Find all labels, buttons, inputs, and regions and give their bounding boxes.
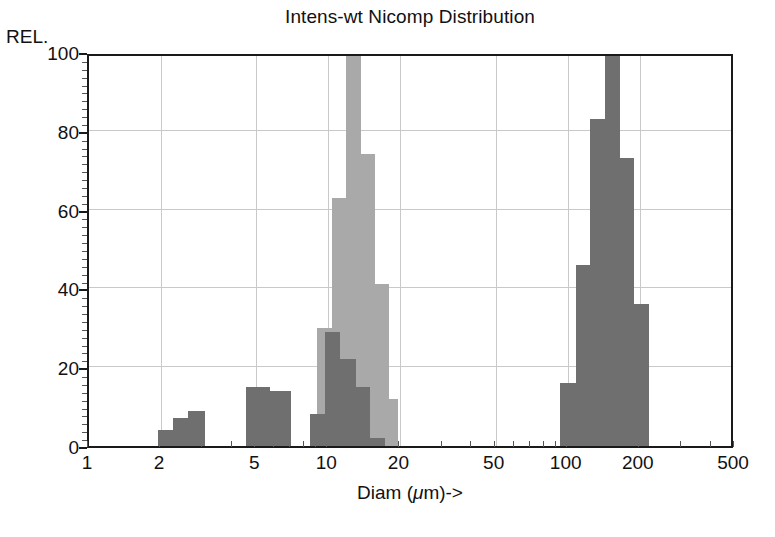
x-axis-tick-label: 10 [316,452,337,474]
x-axis-tick-minor [494,441,495,447]
chart-container: Intens-wt Nicomp Distribution REL. 02040… [0,0,775,537]
y-axis-tick-minor [82,117,87,118]
bar [620,158,635,446]
bar [370,438,385,446]
y-axis-tick-minor [82,172,87,173]
bar [270,391,291,446]
y-axis-tick-minor [82,86,87,87]
x-axis-tick-minor [555,441,556,447]
x-axis-tick-label: 1 [82,452,93,474]
x-axis-tick-label: 200 [622,452,654,474]
bar [158,430,173,446]
y-axis-tick-minor [82,251,87,252]
y-axis-tick-minor [82,409,87,410]
y-axis-tick-minor [82,156,87,157]
y-axis-tick-minor [82,346,87,347]
y-axis-tick-label: 100 [35,44,79,63]
y-axis-tick-major [79,211,87,213]
bar [605,54,620,446]
x-axis-tick-minor [733,441,734,447]
y-axis-tick-minor [82,424,87,425]
y-axis-tick-label: 20 [35,359,79,378]
x-axis-title-text: Diam ( [357,482,413,503]
y-axis-tick-minor [82,385,87,386]
y-axis-tick-minor [82,164,87,165]
y-axis-tick-minor [82,432,87,433]
y-axis-tick-minor [82,109,87,110]
x-axis-tick-label: 50 [483,452,504,474]
mu-symbol: μ [413,482,423,503]
x-axis-tick-minor [680,441,681,447]
y-axis-tick-minor [82,93,87,94]
y-axis-tick-minor [82,227,87,228]
y-axis-tick-label: 40 [35,280,79,299]
y-axis-tick-minor [82,141,87,142]
y-axis-tick-minor [82,149,87,150]
y-axis-tick-minor [82,306,87,307]
y-axis-tick-minor [82,377,87,378]
bar [340,359,355,446]
y-axis-tick-minor [82,275,87,276]
y-axis-tick-minor [82,188,87,189]
x-axis-tick-minor [231,441,232,447]
y-axis-tick-minor [82,267,87,268]
y-axis-tick-major [79,132,87,134]
y-axis-tick-label: 0 [35,438,79,457]
y-axis-tick-minor [82,70,87,71]
y-axis-tick-minor [82,416,87,417]
bars-layer [89,56,731,446]
x-axis-tick-label: 20 [388,452,409,474]
bar [560,383,576,446]
bar [634,304,649,446]
y-axis-tick-minor [82,330,87,331]
y-axis-tick-major [79,368,87,370]
y-axis-tick-minor [82,322,87,323]
y-axis-tick-minor [82,361,87,362]
x-axis-tick-minor [543,441,544,447]
y-axis-tick-minor [82,243,87,244]
x-axis-tick-minor [303,441,304,447]
y-axis-tick-minor [82,219,87,220]
x-axis-tick-minor [710,441,711,447]
y-axis-tick-minor [82,180,87,181]
chart-title: Intens-wt Nicomp Distribution [87,6,733,28]
y-axis-tick-minor [82,204,87,205]
y-axis-tick-minor [82,298,87,299]
x-axis-tick-minor [470,441,471,447]
bar [310,414,326,446]
y-axis-tick-minor [82,314,87,315]
x-axis-title-suffix: m)-> [423,482,463,503]
x-axis-tick-minor [441,441,442,447]
bar [356,387,371,446]
x-axis-tick-label: 100 [550,452,582,474]
bar [576,265,590,446]
y-axis-tick-minor [82,401,87,402]
bar [389,399,398,446]
y-axis-tick-minor [82,62,87,63]
y-axis-tick-minor [82,235,87,236]
bar [246,387,269,446]
x-axis-tick-label: 5 [249,452,260,474]
y-axis-tick-minor [82,393,87,394]
y-axis-tick-label: 80 [35,123,79,142]
bar [173,418,188,446]
bar [188,411,205,446]
x-axis-tick-minor [87,441,88,447]
y-axis-tick-minor [82,196,87,197]
y-axis-tick-minor [82,283,87,284]
y-axis-tick-major [79,447,87,449]
bar [325,332,340,446]
y-axis-tick-major [79,53,87,55]
bar [590,119,605,446]
x-axis-tick-minor [529,441,530,447]
x-axis-tick-label: 2 [154,452,165,474]
x-axis-tick-minor [398,441,399,447]
y-axis-tick-major [79,289,87,291]
x-axis-tick-label: 500 [717,452,749,474]
y-axis-tick-minor [82,353,87,354]
y-axis-tick-minor [82,101,87,102]
y-axis-tick-minor [82,259,87,260]
x-axis-tick-minor [513,441,514,447]
bar [375,284,389,446]
plot-area [87,54,733,448]
